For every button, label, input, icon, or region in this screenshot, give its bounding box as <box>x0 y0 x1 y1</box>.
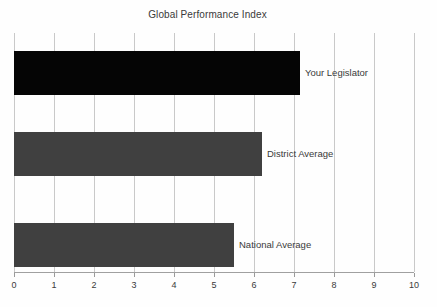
x-tick-label-5: 5 <box>202 280 226 290</box>
x-tick-mark-8 <box>334 273 335 277</box>
x-tick-mark-5 <box>214 273 215 277</box>
x-tick-label-0: 0 <box>2 280 26 290</box>
x-tick-label-10: 10 <box>402 280 426 290</box>
x-tick-label-1: 1 <box>42 280 66 290</box>
bar-national-average[interactable] <box>14 223 234 267</box>
bar-district-average[interactable] <box>14 132 262 176</box>
x-tick-mark-7 <box>294 273 295 277</box>
gridline-10 <box>414 33 415 272</box>
x-tick-label-2: 2 <box>82 280 106 290</box>
gridline-9 <box>374 33 375 272</box>
x-tick-label-6: 6 <box>242 280 266 290</box>
x-tick-label-7: 7 <box>282 280 306 290</box>
x-tick-mark-0 <box>14 273 15 277</box>
x-tick-label-4: 4 <box>162 280 186 290</box>
plot-area: 012345678910 Your LegislatorDistrict Ave… <box>0 0 437 307</box>
x-tick-mark-4 <box>174 273 175 277</box>
x-tick-mark-2 <box>94 273 95 277</box>
x-tick-label-9: 9 <box>362 280 386 290</box>
x-tick-mark-9 <box>374 273 375 277</box>
x-tick-label-3: 3 <box>122 280 146 290</box>
bar-label-national-average: National Average <box>239 239 311 250</box>
x-tick-mark-1 <box>54 273 55 277</box>
x-tick-mark-6 <box>254 273 255 277</box>
bar-label-your-legislator: Your Legislator <box>305 67 368 78</box>
x-tick-mark-3 <box>134 273 135 277</box>
bar-label-district-average: District Average <box>267 148 333 159</box>
x-tick-label-8: 8 <box>322 280 346 290</box>
x-tick-mark-10 <box>414 273 415 277</box>
bar-your-legislator[interactable] <box>14 51 300 95</box>
chart-container: Global Performance Index 012345678910 Yo… <box>0 0 437 307</box>
